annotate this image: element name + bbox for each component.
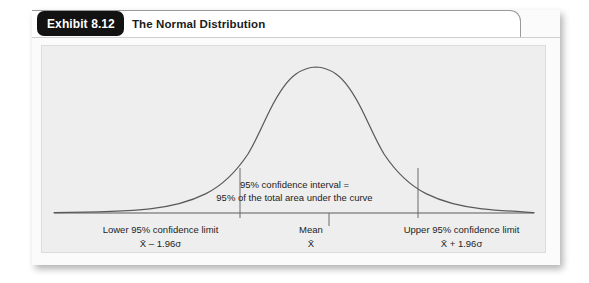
upper-limit-label-group: Upper 95% confidence limit X̄ + 1.96σ <box>379 224 544 250</box>
upper-limit-label: Upper 95% confidence limit <box>379 224 544 236</box>
exhibit-title: The Normal Distribution <box>132 10 265 37</box>
lower-limit-label: Lower 95% confidence limit <box>78 224 243 236</box>
mean-formula: X̄ <box>275 238 347 250</box>
mean-label-group: Mean X̄ <box>275 224 347 250</box>
confidence-interval-line-1: 95% confidence interval = <box>42 179 547 192</box>
exhibit-number-tab: Exhibit 8.12 <box>37 11 124 36</box>
header-divider <box>32 37 560 38</box>
lower-limit-formula: X̄ – 1.96σ <box>78 238 243 250</box>
exhibit-panel: Exhibit 8.12 The Normal Distribution 95%… <box>32 10 560 265</box>
confidence-interval-line-2: 95% of the total area under the curve <box>42 192 547 205</box>
normal-distribution-chart <box>42 46 545 252</box>
lower-limit-label-group: Lower 95% confidence limit X̄ – 1.96σ <box>78 224 243 250</box>
chart-plate: 95% confidence interval = 95% of the tot… <box>41 45 546 253</box>
mean-label: Mean <box>275 224 347 236</box>
upper-limit-formula: X̄ + 1.96σ <box>379 238 544 250</box>
exhibit-number-label: Exhibit 8.12 <box>47 17 115 31</box>
confidence-interval-annotation: 95% confidence interval = 95% of the tot… <box>42 179 547 204</box>
